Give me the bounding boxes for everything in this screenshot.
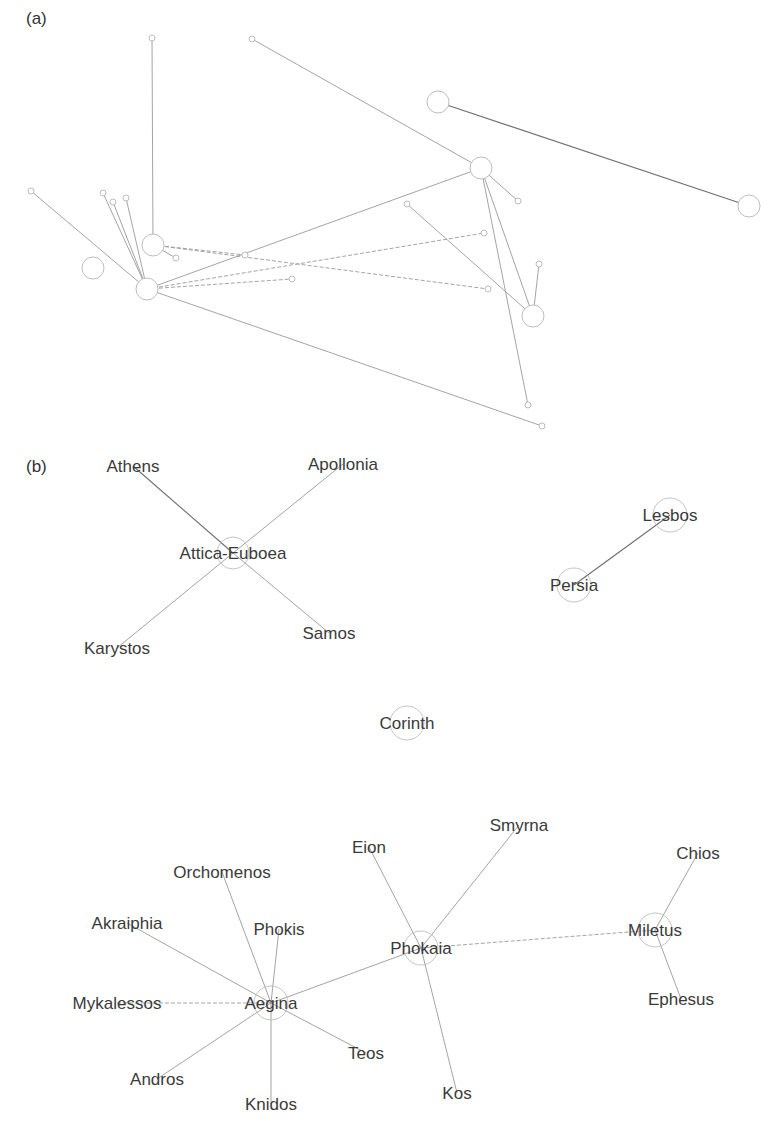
node-a7 — [142, 234, 164, 256]
node-label-attica: Attica-Euboea — [180, 544, 287, 563]
edge-a17-a6 — [407, 204, 533, 316]
panel-a-label: (a) — [26, 9, 47, 28]
edge-a7-a19 — [153, 245, 488, 289]
node-a8 — [82, 257, 104, 279]
node-label-samos: Samos — [303, 624, 356, 643]
node-label-andros: Andros — [130, 1070, 184, 1089]
edge-apollonia-attica — [233, 464, 343, 553]
edge-a9-a16 — [147, 279, 292, 289]
node-label-ephesus: Ephesus — [648, 990, 714, 1009]
edge-a1-a7 — [152, 38, 153, 245]
node-a3 — [427, 91, 449, 113]
edge-chios-miletus — [655, 853, 698, 930]
edge-lesbos-persia — [574, 515, 670, 585]
node-label-persia: Persia — [550, 576, 599, 595]
edge-a3-a4 — [438, 102, 749, 206]
node-label-athens: Athens — [107, 457, 160, 476]
panel-a-unlabeled-network: (a) — [26, 9, 760, 429]
node-label-teos: Teos — [348, 1044, 384, 1063]
node-a11 — [100, 190, 106, 196]
node-a18 — [481, 230, 487, 236]
node-a17 — [404, 201, 410, 207]
edge-smyrna-phokaia — [421, 825, 519, 948]
edge-karystos-attica — [117, 553, 233, 648]
node-label-smyrna: Smyrna — [490, 816, 549, 835]
node-a4 — [738, 195, 760, 217]
node-a12 — [110, 199, 116, 205]
node-label-miletus: Miletus — [628, 921, 682, 940]
node-label-chios: Chios — [676, 844, 719, 863]
node-label-apollonia: Apollonia — [308, 455, 378, 474]
edge-a9-a23 — [147, 289, 542, 426]
node-label-akraiphia: Akraiphia — [92, 914, 163, 933]
node-a15 — [242, 252, 248, 258]
node-label-aegina: Aegina — [245, 994, 298, 1013]
node-label-corinth: Corinth — [380, 714, 435, 733]
edge-akraiphia-aegina — [127, 923, 271, 1003]
node-a5 — [470, 157, 492, 179]
node-a21 — [536, 261, 542, 267]
edge-andros-aegina — [157, 1003, 271, 1079]
panel-a-nodes — [28, 35, 760, 429]
panel-b-labels: Attica-EuboeaAthensApolloniaKarystosSamo… — [73, 455, 720, 1114]
node-label-kos: Kos — [442, 1084, 471, 1103]
node-a19 — [485, 286, 491, 292]
node-label-phokis: Phokis — [253, 920, 304, 939]
node-a1 — [149, 35, 155, 41]
edge-phokis-aegina — [271, 929, 279, 1003]
node-a23 — [539, 423, 545, 429]
panel-b-nodes — [217, 498, 687, 1020]
node-label-eion: Eion — [352, 838, 386, 857]
node-label-phokaia: Phokaia — [390, 939, 452, 958]
node-label-knidos: Knidos — [245, 1095, 297, 1114]
edge-a11-a9 — [103, 193, 147, 289]
panel-b-label: (b) — [26, 457, 47, 476]
node-a9 — [136, 278, 158, 300]
node-a16 — [289, 276, 295, 282]
edge-kos-phokaia — [421, 948, 457, 1093]
edge-samos-attica — [233, 553, 329, 633]
node-a10 — [28, 188, 34, 194]
edge-athens-attica — [133, 466, 233, 553]
panel-a-edges — [31, 38, 749, 426]
node-label-lesbos: Lesbos — [643, 506, 698, 525]
node-a13 — [123, 195, 129, 201]
node-a22 — [525, 402, 531, 408]
network-diagram: (a) (b) Attica-EuboeaAthensApolloniaKary… — [0, 0, 767, 1133]
panel-b-labeled-network: (b) Attica-EuboeaAthensApolloniaKarystos… — [26, 455, 720, 1114]
edge-a9-a18 — [147, 233, 484, 289]
edge-phokaia-miletus — [421, 930, 655, 948]
node-a6 — [522, 305, 544, 327]
node-a2 — [249, 36, 255, 42]
node-a20 — [515, 198, 521, 204]
edge-a9-a5 — [147, 168, 481, 289]
node-label-orchomenos: Orchomenos — [173, 863, 270, 882]
node-label-karystos: Karystos — [84, 639, 150, 658]
node-a14 — [173, 255, 179, 261]
node-label-mykalessos: Mykalessos — [73, 994, 162, 1013]
edge-a5-a6 — [481, 168, 533, 316]
